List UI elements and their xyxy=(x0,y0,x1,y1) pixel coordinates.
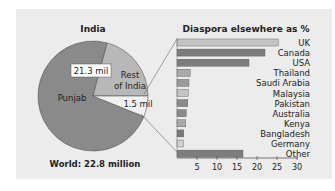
x-tick-label: 10 xyxy=(212,163,222,172)
bar-pakistan xyxy=(177,100,188,107)
bar-other xyxy=(177,150,243,157)
x-tick-label: 20 xyxy=(252,163,262,172)
bar-germany xyxy=(177,140,183,147)
bar-label: Bangladesh xyxy=(260,129,310,139)
pie-footer: World: 22.8 million xyxy=(50,159,141,169)
bar-malaysia xyxy=(177,90,188,97)
bar-label: Pakistan xyxy=(274,99,310,109)
bar-label: Saudi Arabia xyxy=(256,78,310,88)
bar-usa xyxy=(177,59,249,66)
bar-label: Thailand xyxy=(272,68,310,78)
bar-label: Australia xyxy=(272,109,310,119)
label-big: 21.3 mil xyxy=(74,66,109,76)
label-small: 1.5 mil xyxy=(123,99,152,109)
bar-thailand xyxy=(177,69,190,76)
label-punjab: Punjab xyxy=(58,93,87,103)
bar-bangladesh xyxy=(177,130,184,137)
bar-saudi-arabia xyxy=(177,79,189,86)
chart-canvas: India 21.3 mil Rest of India Punjab 1.5 … xyxy=(0,0,335,191)
bar-label: Canada xyxy=(278,48,310,58)
bar-kenya xyxy=(177,120,186,127)
label-rest-line2: of India xyxy=(114,81,146,91)
label-rest-line1: Rest xyxy=(121,70,140,80)
bar-label: Other xyxy=(286,149,311,159)
bar-chart: Diaspora elsewhere as % UKCanadaUSAThail… xyxy=(177,24,310,172)
bar-canada xyxy=(177,49,265,56)
x-tick-label: 15 xyxy=(232,163,242,172)
bar-uk xyxy=(177,39,278,46)
bar-label: Malaysia xyxy=(273,89,310,99)
bar-label: USA xyxy=(292,58,310,68)
x-tick-label: 30 xyxy=(292,163,302,172)
bar-label: Kenya xyxy=(284,119,310,129)
bar-australia xyxy=(177,110,186,117)
connector-bottom xyxy=(141,114,177,152)
connector-top xyxy=(144,39,177,94)
x-tick-label: 25 xyxy=(272,163,282,172)
pie-title: India xyxy=(80,24,105,34)
pie-chart: India 21.3 mil Rest of India Punjab 1.5 … xyxy=(38,24,153,169)
bar-label: Germany xyxy=(271,139,310,149)
bar-label: UK xyxy=(298,38,310,48)
bar-title: Diaspora elsewhere as % xyxy=(183,24,310,34)
x-tick-label: 5 xyxy=(194,163,199,172)
